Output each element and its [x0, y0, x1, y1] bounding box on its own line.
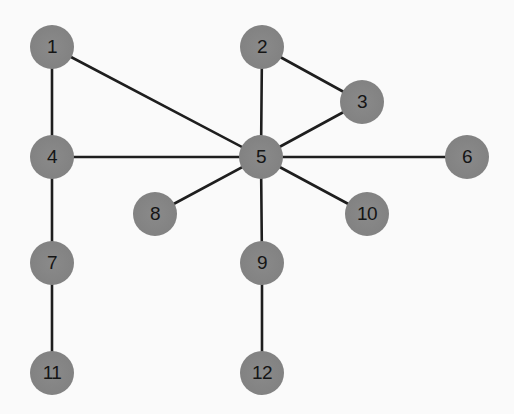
- node-label: 1: [47, 36, 57, 58]
- node-9: 9: [240, 241, 284, 285]
- node-label: 7: [47, 252, 57, 274]
- node-11: 11: [30, 351, 74, 395]
- node-12: 12: [240, 351, 284, 395]
- node-6: 6: [445, 135, 489, 179]
- node-4: 4: [30, 135, 74, 179]
- node-2: 2: [240, 25, 284, 69]
- node-label: 6: [462, 146, 472, 168]
- edge-1-5: [52, 47, 261, 157]
- node-label: 12: [252, 362, 272, 384]
- node-label: 9: [257, 252, 267, 274]
- graph-diagram: 123456789101112: [0, 0, 514, 414]
- node-label: 2: [257, 36, 267, 58]
- node-label: 10: [357, 203, 377, 225]
- node-7: 7: [30, 241, 74, 285]
- node-label: 11: [43, 362, 62, 384]
- node-label: 3: [357, 91, 367, 113]
- node-5: 5: [239, 135, 283, 179]
- node-label: 4: [47, 146, 57, 168]
- node-label: 8: [150, 203, 160, 225]
- node-3: 3: [340, 80, 384, 124]
- node-label: 5: [256, 146, 266, 168]
- node-10: 10: [345, 192, 389, 236]
- node-1: 1: [30, 25, 74, 69]
- node-8: 8: [133, 192, 177, 236]
